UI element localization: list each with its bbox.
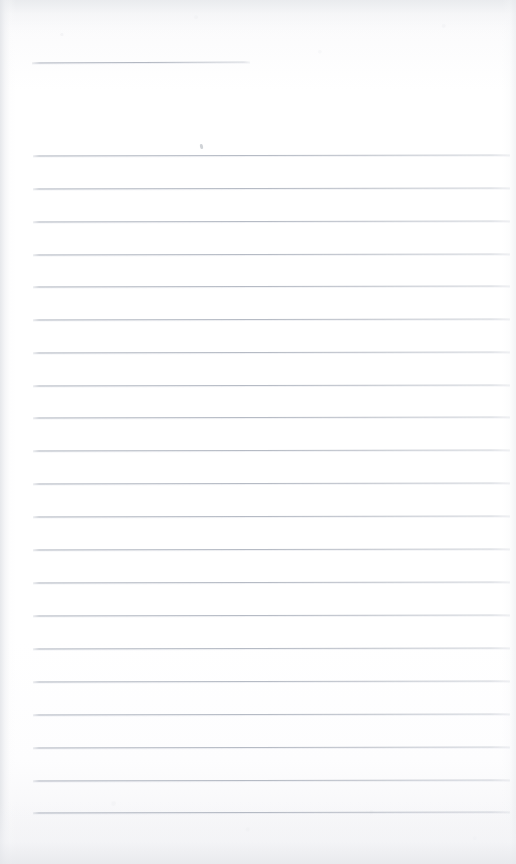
scan-shadow-top	[0, 0, 516, 34]
ruled-line	[33, 714, 510, 716]
paper-background	[0, 0, 516, 864]
scan-shadow-right	[502, 0, 516, 864]
ruled-line	[33, 747, 510, 749]
ruled-line	[33, 319, 510, 321]
ruled-line	[33, 780, 510, 782]
ruled-line	[33, 286, 510, 288]
ruled-line	[33, 450, 510, 452]
ruled-line	[33, 221, 510, 223]
ruled-line	[33, 155, 510, 157]
ruled-line	[33, 188, 510, 190]
ruled-line	[33, 582, 510, 584]
ruled-line	[33, 812, 510, 814]
scan-shadow-left	[0, 0, 16, 864]
ruled-line	[33, 615, 510, 617]
ruled-line	[33, 254, 510, 256]
scanned-page: Blank scanned ruled notebook page — no h…	[0, 0, 516, 864]
ruled-line	[33, 352, 510, 354]
ruled-line	[33, 483, 510, 485]
ruled-line	[33, 417, 510, 419]
ruled-line	[33, 648, 510, 650]
ruled-line	[33, 549, 510, 551]
header-rule	[32, 62, 250, 64]
ruled-line	[33, 681, 510, 683]
ruled-line	[33, 516, 510, 518]
ruled-line	[33, 385, 510, 387]
